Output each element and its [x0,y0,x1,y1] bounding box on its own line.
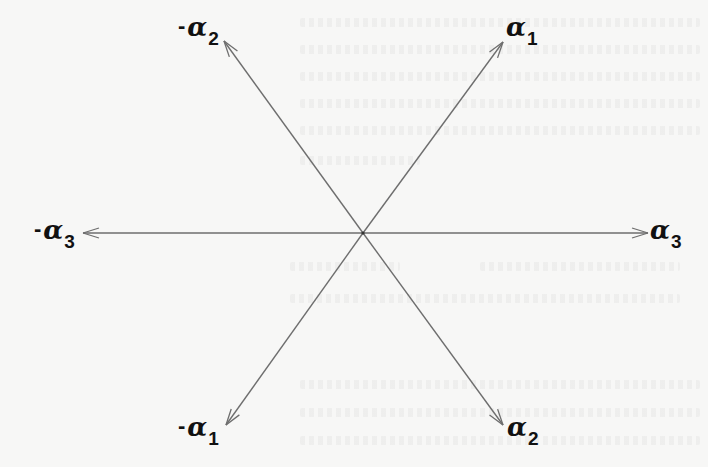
origin-point [361,231,364,234]
sign: - [34,216,41,241]
label-neg-alpha1: -α1 [178,414,219,440]
label-alpha1: α1 [504,14,538,40]
arrow-neg-alpha2 [224,41,363,233]
symbol: α [650,215,670,245]
subscript: 2 [208,28,219,49]
subscript: 1 [527,28,538,49]
label-neg-alpha2: -α2 [178,14,219,40]
arrow-neg-alpha3 [83,228,363,238]
sign: - [178,13,185,38]
arrowhead-icon [632,233,648,238]
subscript: 3 [64,231,75,252]
symbol: α [507,412,527,442]
arrow-alpha1 [363,42,503,233]
label-alpha3: α3 [648,217,682,243]
arrowhead-icon [632,228,648,233]
subscript: 2 [528,428,539,449]
arrow-alpha3 [363,228,648,238]
subscript: 3 [671,231,682,252]
arrowhead-icon [83,228,99,233]
sign: - [178,413,185,438]
symbol: α [506,12,526,42]
arrow-alpha2 [363,233,503,425]
label-alpha2: α2 [505,414,539,440]
symbol: α [187,412,207,442]
subscript: 1 [208,428,219,449]
symbol: α [187,12,207,42]
root-system-diagram: α1 -α2 α3 -α3 -α1 α2 [0,0,708,467]
arrows-layer [0,0,708,467]
arrowhead-icon [83,233,99,238]
arrow-neg-alpha1 [226,233,363,425]
label-neg-alpha3: -α3 [34,217,75,243]
symbol: α [43,215,63,245]
